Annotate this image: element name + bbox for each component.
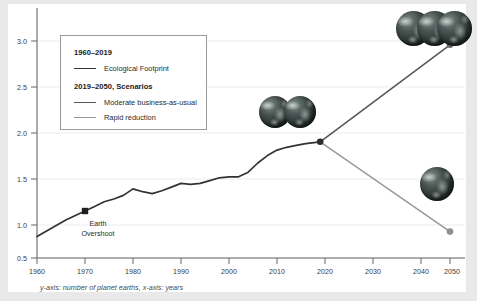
x-tick-label-2020: 2020	[317, 267, 333, 276]
x-tick-label-1970: 1970	[77, 267, 93, 276]
y-tick-label-0-5: 0.5	[17, 254, 27, 263]
legend-swatch-rapid-reduction	[74, 117, 96, 118]
x-tick-label-2000: 2000	[221, 267, 237, 276]
legend-item-ecological-footprint: Ecological Footprint	[74, 64, 169, 73]
earth-overshoot-marker	[82, 208, 88, 214]
x-tick-label-2050: 2050	[444, 267, 460, 276]
axis-caption: y-axis: number of planet earths, x-axis:…	[39, 283, 183, 292]
legend-item-rapid-reduction: Rapid reduction	[74, 113, 156, 122]
legend-heading-scenarios: 2019–2050, Scenarios	[74, 82, 153, 91]
y-tick-label-3-0: 3.0	[17, 37, 27, 46]
globe-2019-b	[284, 96, 316, 128]
y-tick-label-1-5: 1.5	[17, 175, 27, 184]
series-line-ecological-footprint	[37, 142, 320, 237]
x-tick-label-2040: 2040	[413, 267, 429, 276]
earth-overshoot-label-line2: Overshoot	[81, 229, 114, 238]
legend-heading-historical: 1960–2019	[74, 48, 112, 57]
x-axis-ticks: 1960 1970 1980 1990 2000 2010 2020 2030 …	[29, 258, 460, 276]
x-tick-label-1980: 1980	[125, 267, 141, 276]
chart-legend: 1960–2019 Ecological Footprint 2019–2050…	[60, 35, 207, 130]
y-tick-label-1-0: 1.0	[17, 221, 27, 230]
legend-label-ecological-footprint: Ecological Footprint	[104, 64, 169, 73]
legend-swatch-moderate-business-as-usual	[74, 102, 96, 103]
legend-label-moderate-business-as-usual: Moderate business-as-usual	[104, 98, 197, 107]
series-line-moderate-business-as-usual	[320, 45, 450, 142]
chart-root: 3.0 2.5 2.0 1.5 1.0 0.5 1960 1970 1980 1…	[0, 0, 477, 301]
earth-overshoot-annotation: Earth Overshoot	[81, 219, 114, 238]
legend-label-rapid-reduction: Rapid reduction	[104, 113, 156, 122]
legend-item-moderate-business-as-usual: Moderate business-as-usual	[74, 98, 197, 107]
y-tick-label-2-5: 2.5	[17, 83, 27, 92]
rapid-endpoint-marker	[447, 228, 454, 235]
earth-overshoot-label-line1: Earth	[89, 219, 106, 228]
y-axis-ticks: 3.0 2.5 2.0 1.5 1.0 0.5	[17, 37, 37, 263]
globe-2050-rapid-a	[420, 167, 454, 201]
x-tick-label-1990: 1990	[173, 267, 189, 276]
legend-swatch-ecological-footprint	[74, 68, 96, 69]
x-tick-label-2030: 2030	[365, 267, 381, 276]
x-tick-label-1960: 1960	[29, 267, 45, 276]
y-tick-label-2-0: 2.0	[17, 129, 27, 138]
globe-2050-bau-c	[437, 11, 472, 46]
x-tick-label-2010: 2010	[269, 267, 285, 276]
branch-marker	[317, 139, 324, 146]
